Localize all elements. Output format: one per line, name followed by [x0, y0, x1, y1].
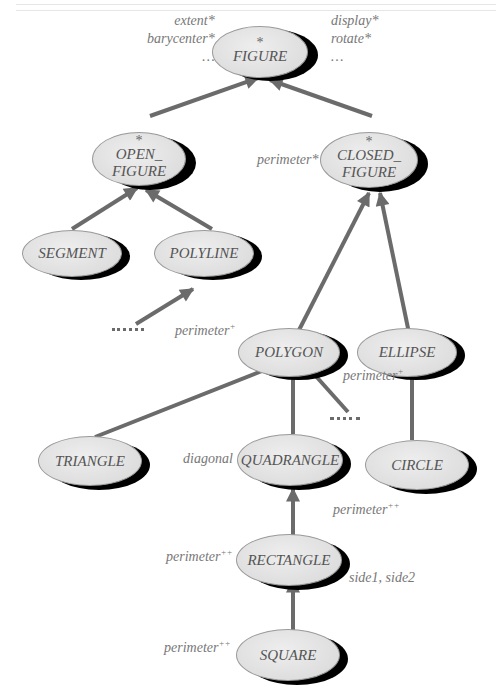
- class-label: TRIANGLE: [55, 453, 125, 470]
- figure-features-right: display* rotate* …: [331, 12, 378, 66]
- class-node-square[interactable]: SQUARE: [236, 629, 348, 685]
- class-node-quadrangle[interactable]: QUADRANGLE: [237, 434, 351, 490]
- class-label: POLYLINE: [170, 245, 239, 262]
- more-open-figures-ellipsis: [112, 328, 144, 334]
- class-label-line2: FIGURE: [342, 164, 396, 181]
- closed-figure-feature: perimeter*: [257, 151, 318, 169]
- figure-features-left: extent* barycenter* …: [147, 12, 215, 66]
- class-node-polygon[interactable]: POLYGON: [238, 328, 348, 380]
- class-label: QUADRANGLE: [241, 452, 339, 469]
- deferred-marker: *: [257, 38, 264, 48]
- deferred-marker: *: [136, 136, 143, 146]
- class-label: RECTANGLE: [247, 552, 330, 569]
- class-node-triangle[interactable]: TRIANGLE: [38, 436, 150, 490]
- class-label: FIGURE: [233, 48, 287, 65]
- more-polygons-ellipsis: [330, 417, 360, 423]
- rectangle-feature-left: perimeter++: [166, 543, 233, 566]
- class-node-polyline[interactable]: POLYLINE: [154, 230, 262, 280]
- ellipse-feature: perimeter+: [343, 362, 404, 385]
- class-node-circle[interactable]: CIRCLE: [365, 440, 477, 494]
- class-node-closed-figure[interactable]: * CLOSED_ FIGURE: [320, 132, 428, 192]
- class-label: SEGMENT: [38, 245, 106, 262]
- deferred-marker: *: [366, 137, 373, 147]
- class-node-figure[interactable]: * FIGURE: [212, 26, 312, 80]
- class-label-line1: CLOSED_: [337, 147, 401, 164]
- class-node-open-figure[interactable]: * OPEN_ FIGURE: [92, 132, 196, 190]
- rectangle-feature-right: side1, side2: [349, 569, 415, 587]
- class-node-segment[interactable]: SEGMENT: [22, 230, 130, 280]
- class-node-rectangle[interactable]: RECTANGLE: [236, 534, 350, 590]
- class-label: CIRCLE: [391, 457, 443, 474]
- class-label: SQUARE: [260, 647, 317, 664]
- circle-feature: perimeter++: [333, 496, 400, 519]
- class-label: ELLIPSE: [379, 344, 436, 361]
- class-label-line2: FIGURE: [112, 163, 166, 180]
- class-label: POLYGON: [255, 344, 323, 361]
- class-label-line1: OPEN_: [116, 146, 163, 163]
- polygon-feature: perimeter+: [175, 317, 236, 340]
- square-feature: perimeter++: [164, 634, 231, 657]
- quadrangle-feature: diagonal: [183, 450, 233, 468]
